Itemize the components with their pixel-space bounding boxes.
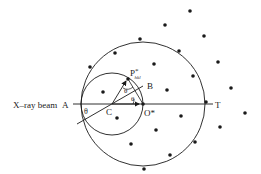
theta-label-o: θ [131, 95, 135, 103]
ewald-sphere-diagram: X–ray beam A C O* T B P*hkl θ θ θ [0, 0, 261, 174]
plane-line-cb [77, 86, 143, 124]
point-b-label: B [147, 81, 153, 91]
lattice-point [216, 60, 220, 64]
reciprocal-lattice-points [88, 9, 247, 171]
point-c-label: C [106, 107, 112, 117]
lattice-point [204, 100, 208, 104]
lattice-point [168, 153, 172, 157]
point-o-label: O* [144, 108, 155, 118]
lattice-point [193, 140, 197, 144]
point-t-label: T [215, 100, 221, 110]
lattice-point [138, 37, 142, 41]
lattice-point [243, 111, 247, 115]
lattice-point [165, 88, 169, 92]
lattice-point [101, 90, 105, 94]
lattice-point [191, 74, 195, 78]
lattice-point [229, 86, 233, 90]
lattice-point [188, 9, 192, 13]
lattice-point [141, 102, 145, 106]
point-p-label: P*hkl [130, 67, 141, 80]
theta-label-p: θ [124, 87, 128, 95]
lattice-point [154, 128, 158, 132]
lattice-point [129, 142, 133, 146]
point-a-label: A [62, 100, 69, 110]
lattice-point [179, 114, 183, 118]
lattice-point [218, 125, 222, 129]
lattice-point [88, 65, 92, 69]
lattice-point [142, 167, 146, 171]
lattice-point [177, 49, 181, 53]
point-p-sup: * [135, 67, 139, 75]
theta-label-left: θ [84, 107, 88, 116]
lattice-point [152, 62, 156, 66]
beam-label: X–ray beam [13, 100, 57, 110]
lattice-point [115, 116, 119, 120]
lattice-point [202, 34, 206, 38]
lattice-point [163, 23, 167, 27]
diagram-canvas: X–ray beam A C O* T B P*hkl θ θ θ [0, 0, 261, 174]
point-p-sub: hkl [135, 75, 142, 80]
lattice-point [113, 51, 117, 55]
